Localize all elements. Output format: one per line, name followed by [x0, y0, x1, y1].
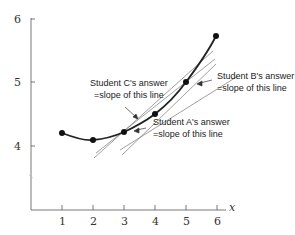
- annotation-a-title: Student A's answer: [153, 117, 230, 127]
- x-tick-label: 2: [90, 215, 97, 228]
- x-tick-label: 5: [183, 215, 190, 228]
- student-c-line: [94, 51, 213, 158]
- x-tick-label: 4: [152, 215, 159, 228]
- y-tick-label: 6: [14, 13, 21, 26]
- data-point: [121, 129, 127, 135]
- y-tick-label: 4: [14, 140, 21, 153]
- x-tick-label: 3: [121, 215, 128, 228]
- data-point: [59, 130, 65, 136]
- x-tick-label: 1: [59, 215, 66, 228]
- annotation-a-sub: =slope of this line: [153, 129, 223, 139]
- annotation-b-sub: =slope of this line: [217, 83, 287, 93]
- chart: 6 5 4 1 2 3 4 5 6 x Student C's answer =…: [0, 0, 295, 235]
- x-axis-variable: x: [229, 201, 236, 214]
- data-point: [90, 137, 96, 143]
- annotation-c-title: Student C's answer: [90, 78, 168, 88]
- axes: [31, 18, 226, 210]
- x-tick-label: 6: [214, 215, 221, 228]
- data-point: [213, 33, 219, 39]
- annotation-c-sub: =slope of this line: [94, 90, 164, 100]
- y-tick-label: 5: [14, 76, 21, 89]
- annotation-b-title: Student B's answer: [217, 71, 294, 81]
- data-point: [183, 79, 189, 85]
- arrowhead-icon: [134, 128, 139, 133]
